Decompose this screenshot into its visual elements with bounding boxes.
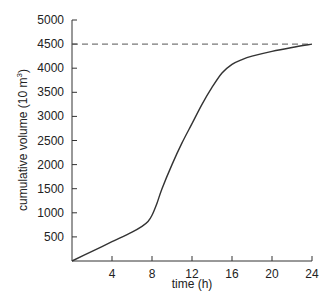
- y-tick-label: 4000: [37, 61, 64, 75]
- y-axis-label: cumulative volume (10 m3): [15, 69, 30, 211]
- series: [72, 44, 312, 261]
- y-axis-label-main: cumulative volume (10 m: [16, 78, 30, 211]
- x-tick-label: 24: [305, 267, 319, 281]
- y-ticks: 500100015002000250030003500400045005000: [37, 13, 77, 244]
- y-tick-label: 4500: [37, 37, 64, 51]
- x-axis-label: time (h): [172, 277, 213, 291]
- y-tick-label: 3000: [37, 109, 64, 123]
- y-tick-label: 1000: [37, 206, 64, 220]
- chart: 500100015002000250030003500400045005000 …: [0, 0, 334, 297]
- x-tick-label: 16: [225, 267, 239, 281]
- x-tick-label: 8: [149, 267, 156, 281]
- x-tick-label: 4: [109, 267, 116, 281]
- y-tick-label: 500: [44, 230, 64, 244]
- y-tick-label: 1500: [37, 182, 64, 196]
- series-line-cumulative-volume: [72, 44, 312, 261]
- y-axis-label-end: ): [16, 69, 30, 73]
- axes: [72, 20, 312, 261]
- y-tick-label: 2500: [37, 134, 64, 148]
- y-tick-label: 5000: [37, 13, 64, 27]
- y-tick-label: 2000: [37, 158, 64, 172]
- y-tick-label: 3500: [37, 85, 64, 99]
- x-ticks: 4812162024: [109, 256, 319, 281]
- x-tick-label: 20: [265, 267, 279, 281]
